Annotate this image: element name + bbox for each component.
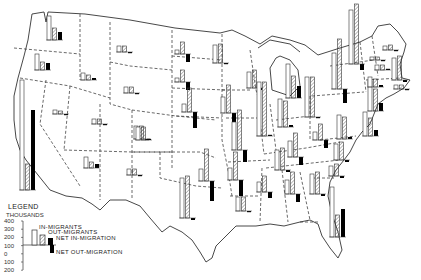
- in-migrants-bar: [20, 80, 24, 190]
- net-in-migration-bar: [31, 110, 35, 190]
- out-migrants-bar: [292, 76, 296, 98]
- in-migrants-bar: [232, 122, 236, 150]
- in-migrants-bar: [370, 57, 374, 60]
- out-migrants-bar: [242, 197, 246, 211]
- in-migrants-bar: [394, 85, 398, 89]
- in-migrants-bar: [349, 10, 353, 64]
- in-migrants-bar: [247, 72, 251, 88]
- state-bar-group-nd: [174, 42, 191, 62]
- in-migrants-bar: [383, 46, 387, 50]
- net-out-migration-bar: [343, 89, 347, 103]
- in-migrants-bar: [175, 50, 179, 54]
- out-migrants-bar: [389, 45, 393, 50]
- in-migrants-bar: [213, 45, 217, 63]
- in-migrants-bar: [305, 77, 309, 117]
- in-migrants-bar: [288, 141, 292, 157]
- in-migrants-bar: [368, 77, 372, 87]
- in-migrants-bar: [127, 169, 131, 175]
- state-bar-group-nm: [126, 169, 143, 176]
- out-migrants-bar: [336, 215, 340, 237]
- state-bar-group-ct: [367, 77, 384, 87]
- out-migrants-bar: [26, 164, 30, 190]
- legend-tick-label: 300: [4, 226, 15, 232]
- in-migrants-bar: [81, 73, 85, 80]
- out-migrants-bar: [263, 82, 267, 136]
- out-migrants-bar: [133, 169, 137, 175]
- legend-tick-label: 200: [4, 267, 15, 273]
- net-out-migration-bar: [268, 192, 272, 198]
- net-in-migration-bar: [95, 164, 99, 168]
- state-bar-group-or: [34, 54, 51, 70]
- state-bar-group-ms: [256, 176, 273, 198]
- net-in-migration-bar: [289, 125, 293, 127]
- state-bar-group-az: [83, 157, 100, 168]
- in-migrants-bar: [363, 112, 367, 136]
- in-migrants-bar: [35, 54, 39, 70]
- out-migrants-bar: [343, 117, 347, 139]
- out-migrants-bar: [87, 75, 91, 80]
- out-migrants-bar: [376, 57, 380, 60]
- state-bar-group-ia: [220, 85, 237, 125]
- net-out-migration-bar: [340, 176, 344, 178]
- state-bar-group-tx: [179, 176, 196, 220]
- out-migrants-bar: [253, 70, 257, 88]
- out-migrants-bar: [381, 65, 385, 70]
- legend-tick-label: 100: [4, 243, 15, 249]
- out-migrants-bar: [53, 28, 57, 40]
- out-migrants-bar: [234, 152, 238, 180]
- state-bar-group-wy: [123, 87, 140, 94]
- state-bar-group-md: [362, 112, 379, 136]
- net-out-migration-bar: [243, 150, 247, 162]
- out-migrants-bar: [281, 148, 285, 170]
- state-bars: [19, 4, 410, 237]
- net-out-migration-bar: [360, 64, 364, 70]
- in-migrants-bar: [257, 182, 261, 192]
- net-in-migration-bar: [379, 103, 383, 111]
- legend-tick-label: 0: [4, 251, 8, 257]
- out-migrants-bar: [291, 172, 295, 194]
- state-bar-group-sc: [328, 164, 345, 178]
- in-migrants-bar: [329, 166, 333, 176]
- state-bar-group-mn: [212, 44, 229, 64]
- state-bar-group-oh: [304, 77, 321, 118]
- net-out-migration-bar: [286, 170, 290, 172]
- state-bar-group-in: [277, 99, 294, 127]
- state-bar-group-la: [235, 197, 252, 212]
- state-bar-group-ar: [227, 152, 244, 196]
- migration-map: LEGEND THOUSANDS 4003002001000100200 IN-…: [0, 0, 421, 280]
- legend: LEGEND THOUSANDS 4003002001000100200 IN-…: [4, 203, 123, 273]
- net-out-migration-bar: [299, 157, 303, 165]
- out-migrants-bar: [227, 85, 231, 113]
- in-migrants-bar: [310, 174, 314, 194]
- state-bar-group-nv: [52, 110, 69, 115]
- out-migrants-bar: [319, 124, 323, 140]
- in-migrants-bar: [182, 104, 186, 112]
- out-migrants-bar: [130, 87, 134, 93]
- net-in-migration-bar: [297, 86, 301, 98]
- net-out-migration-bar: [345, 160, 349, 162]
- in-migrants-bar: [84, 157, 88, 168]
- out-migrants-bar: [335, 164, 339, 176]
- in-migrants-bar: [175, 78, 179, 82]
- legend-net-out-bar: [50, 245, 54, 253]
- out-migrants-bar: [311, 77, 315, 117]
- net-out-migration-bar: [403, 80, 407, 82]
- out-migrants-bar: [98, 119, 102, 124]
- out-migrants-bar: [238, 110, 242, 150]
- out-migrants-bar: [59, 111, 63, 114]
- state-borders: [14, 14, 400, 222]
- state-bar-group-ma: [391, 56, 408, 82]
- out-migrants-bar: [369, 118, 373, 136]
- net-out-migration-bar: [193, 112, 197, 128]
- legend-tick-label: 400: [4, 218, 15, 224]
- net-in-migration-bar: [374, 130, 378, 136]
- state-bar-group-wv: [312, 124, 329, 148]
- out-migrants-bar: [284, 101, 288, 127]
- state-bar-group-sd: [174, 70, 191, 90]
- state-bar-group-va: [336, 115, 353, 139]
- legend-out-bar: [40, 235, 45, 245]
- out-migrants-bar: [294, 133, 298, 157]
- net-out-migration-bar: [186, 54, 190, 62]
- in-migrants-bar: [392, 58, 396, 80]
- out-migrants-bar: [355, 4, 359, 64]
